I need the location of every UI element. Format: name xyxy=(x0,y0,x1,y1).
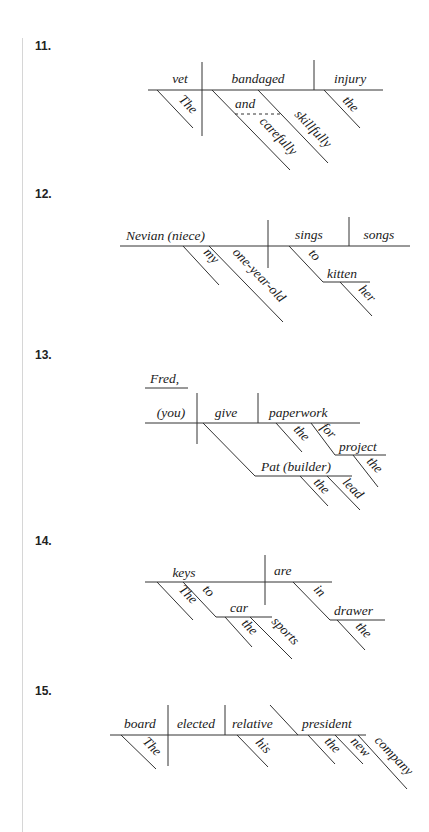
word-company: company xyxy=(372,733,417,778)
word-are: are xyxy=(274,563,292,578)
diagram-12: Nevian (niece) sings songs my one-year-o… xyxy=(120,217,410,322)
word-to: to xyxy=(200,582,218,600)
word-paperwork: paperwork xyxy=(268,405,329,420)
sentence-diagrams: vet bandaged injury The and carefully sk… xyxy=(0,0,429,832)
word-the: the xyxy=(353,619,375,641)
word-kitten: kitten xyxy=(327,266,357,281)
word-lead: lead xyxy=(340,475,367,502)
word-elected: elected xyxy=(177,716,215,731)
word-you: (you) xyxy=(157,405,186,420)
word-president: president xyxy=(301,716,353,731)
diagram-11: vet bandaged injury The and carefully sk… xyxy=(148,60,383,170)
word-the: the xyxy=(291,422,313,444)
word-the: the xyxy=(239,616,261,638)
word-fred: Fred, xyxy=(149,371,179,386)
word-the: The xyxy=(176,582,201,607)
word-my: my xyxy=(201,245,223,267)
word-board: board xyxy=(124,716,156,731)
word-carefully: carefully xyxy=(257,114,301,159)
diagram-14: keys are The to car the sports in drawer… xyxy=(145,555,385,659)
word-and: and xyxy=(235,96,256,111)
word-car: car xyxy=(230,600,249,615)
word-the: The xyxy=(176,92,201,117)
word-to: to xyxy=(306,246,324,264)
word-the: The xyxy=(140,734,165,759)
word-in: in xyxy=(311,582,329,600)
word-vet: vet xyxy=(172,71,189,86)
word-give: give xyxy=(215,405,238,420)
word-nevian-niece: Nevian (niece) xyxy=(125,228,206,243)
diagram-15: board elected relative president The his… xyxy=(110,705,416,789)
word-keys: keys xyxy=(172,565,195,580)
word-skillfully: skillfully xyxy=(292,107,335,151)
word-bandaged: bandaged xyxy=(231,71,284,86)
word-songs: songs xyxy=(364,227,395,242)
word-drawer: drawer xyxy=(334,603,374,618)
word-injury: injury xyxy=(334,71,366,86)
word-the: the xyxy=(322,734,344,756)
word-project: project xyxy=(338,439,378,454)
word-his: his xyxy=(253,735,275,757)
word-one-year-old: one-year-old xyxy=(230,245,289,306)
word-pat-builder: Pat (builder) xyxy=(260,459,332,474)
word-the: the xyxy=(311,475,333,497)
word-relative: relative xyxy=(232,716,273,731)
diagram-13: Fred, (you) give paperwork Pat (builder)… xyxy=(145,371,386,510)
word-sings: sings xyxy=(295,227,323,242)
word-the: the xyxy=(340,93,362,115)
word-sports: sports xyxy=(269,614,303,648)
